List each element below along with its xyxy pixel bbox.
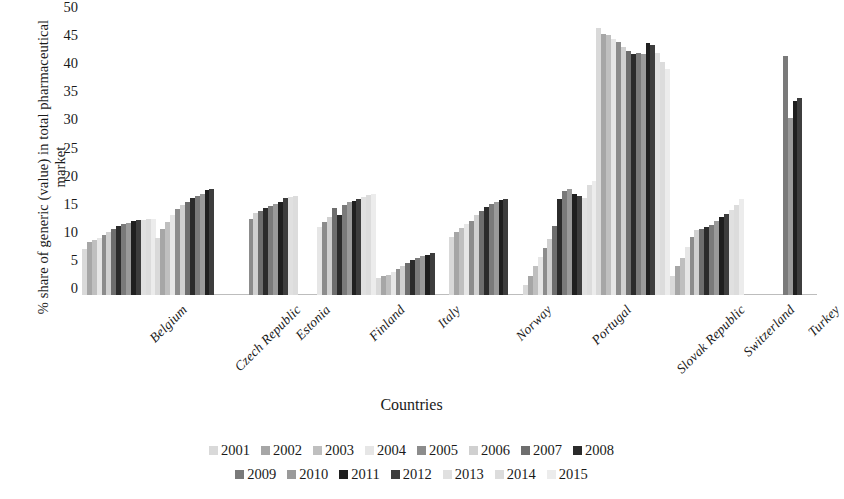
bar-group — [670, 14, 744, 295]
legend-swatch-icon — [521, 446, 530, 455]
legend-label: 2013 — [455, 467, 484, 481]
y-axis-tick-40: 40 — [50, 56, 78, 70]
y-axis-tick-35: 35 — [50, 84, 78, 98]
x-axis-tick-label: Slovak Republic — [674, 302, 749, 377]
legend-label: 2006 — [481, 443, 510, 457]
legend-label: 2004 — [377, 443, 406, 457]
legend-swatch-icon — [495, 470, 504, 479]
y-axis-tick-15: 15 — [50, 197, 78, 211]
legend-label: 2010 — [299, 467, 328, 481]
legend-swatch-icon — [417, 446, 426, 455]
legend-swatch-icon — [313, 446, 322, 455]
legend-item-2008[interactable]: 2008 — [573, 443, 614, 457]
y-axis-tick-50: 50 — [50, 0, 78, 14]
x-axis-tick-label: Belgium — [146, 302, 190, 346]
bar — [293, 196, 298, 295]
legend-row: 20012002200320042005200620072008 — [209, 443, 614, 457]
bar-group — [523, 14, 597, 295]
bar — [797, 98, 802, 295]
legend-label: 2007 — [533, 443, 562, 457]
legend-item-2012[interactable]: 2012 — [391, 467, 432, 481]
y-axis-tick-0: 0 — [50, 281, 78, 295]
legend-item-2015[interactable]: 2015 — [547, 467, 588, 481]
bar-group — [156, 14, 230, 295]
legend-label: 2012 — [403, 467, 432, 481]
y-axis-tick-25: 25 — [50, 141, 78, 155]
legend-label: 2011 — [351, 467, 379, 481]
x-axis-title: Countries — [0, 396, 823, 414]
bar-group — [450, 14, 524, 295]
legend-swatch-icon — [443, 470, 452, 479]
bar-group — [82, 14, 156, 295]
legend-swatch-icon — [339, 470, 348, 479]
bar — [430, 253, 435, 295]
legend-swatch-icon — [469, 446, 478, 455]
y-axis-tick-labels: 05101520253035404550 — [48, 7, 78, 295]
bar — [503, 199, 508, 295]
x-axis-tick-label: Finland — [366, 302, 409, 345]
legend-item-2009[interactable]: 2009 — [235, 467, 276, 481]
chart-legend: 2001200220032004200520062007200820092010… — [0, 443, 823, 481]
legend-label: 2014 — [507, 467, 536, 481]
legend-swatch-icon — [391, 470, 400, 479]
x-axis-tick-label: Norway — [513, 302, 555, 344]
legend-label: 2005 — [429, 443, 458, 457]
legend-label: 2002 — [273, 443, 302, 457]
legend-swatch-icon — [261, 446, 270, 455]
legend-item-2013[interactable]: 2013 — [443, 467, 484, 481]
y-axis-tick-10: 10 — [50, 225, 78, 239]
plot-area — [82, 14, 817, 295]
legend-item-2005[interactable]: 2005 — [417, 443, 458, 457]
legend-item-2002[interactable]: 2002 — [261, 443, 302, 457]
x-axis-tick-labels: BelgiumCzech RepublicEstoniaFinlandItaly… — [82, 296, 817, 391]
legend-item-2007[interactable]: 2007 — [521, 443, 562, 457]
y-axis-tick-30: 30 — [50, 112, 78, 126]
bar-group — [229, 14, 303, 295]
x-axis-tick-label: Italy — [434, 302, 464, 332]
legend-item-2006[interactable]: 2006 — [469, 443, 510, 457]
x-axis-tick-label: Portugal — [588, 302, 634, 348]
legend-swatch-icon — [547, 470, 556, 479]
bar — [209, 189, 214, 295]
legend-label: 2008 — [585, 443, 614, 457]
legend-label: 2009 — [247, 467, 276, 481]
legend-item-2004[interactable]: 2004 — [365, 443, 406, 457]
legend-label: 2001 — [221, 443, 250, 457]
x-axis-tick-label: Turkey — [805, 302, 843, 340]
legend-item-2003[interactable]: 2003 — [313, 443, 354, 457]
legend-swatch-icon — [365, 446, 374, 455]
legend-item-2001[interactable]: 2001 — [209, 443, 250, 457]
y-axis-tick-45: 45 — [50, 28, 78, 42]
bar-group — [376, 14, 450, 295]
legend-item-2011[interactable]: 2011 — [339, 467, 379, 481]
y-axis-tick-20: 20 — [50, 169, 78, 183]
y-axis-tick-5: 5 — [50, 253, 78, 267]
legend-swatch-icon — [235, 470, 244, 479]
legend-swatch-icon — [209, 446, 218, 455]
bar-group — [744, 14, 818, 295]
legend-swatch-icon — [287, 470, 296, 479]
legend-label: 2003 — [325, 443, 354, 457]
legend-item-2010[interactable]: 2010 — [287, 467, 328, 481]
legend-swatch-icon — [573, 446, 582, 455]
legend-label: 2015 — [559, 467, 588, 481]
x-axis-tick-label: Switzerland — [740, 302, 798, 360]
x-axis-tick-label: Czech Republic — [232, 302, 305, 375]
bar-group — [597, 14, 671, 295]
legend-row: 2009201020112012201320142015 — [235, 467, 587, 481]
bar-group — [303, 14, 377, 295]
legend-item-2014[interactable]: 2014 — [495, 467, 536, 481]
